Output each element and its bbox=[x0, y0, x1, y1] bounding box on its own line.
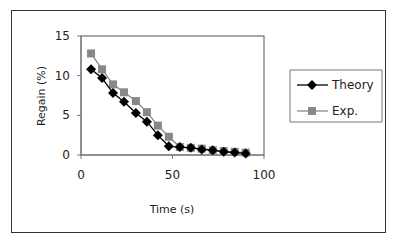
square-marker-icon bbox=[98, 65, 106, 73]
x-tick-label: 0 bbox=[77, 168, 85, 182]
square-marker-icon bbox=[109, 80, 117, 88]
x-axis-title: Time (s) bbox=[149, 203, 195, 216]
y-tick-label: 0 bbox=[62, 148, 70, 162]
y-tick-label: 10 bbox=[55, 69, 70, 83]
square-marker-icon bbox=[154, 122, 162, 130]
x-tick-label: 50 bbox=[165, 168, 180, 182]
square-marker-icon bbox=[120, 88, 128, 96]
series-theory bbox=[86, 64, 251, 158]
series-exp bbox=[87, 49, 250, 156]
line-chart: 051015050100 Regain (%) Time (s) TheoryE… bbox=[0, 0, 395, 245]
series-layer bbox=[86, 49, 251, 158]
square-marker-icon bbox=[132, 97, 140, 105]
y-axis-title: Regain (%) bbox=[35, 66, 48, 126]
legend: TheoryExp. bbox=[290, 70, 382, 122]
y-tick-label: 15 bbox=[55, 29, 70, 43]
square-marker-icon bbox=[165, 133, 173, 141]
y-tick-label: 5 bbox=[62, 108, 70, 122]
square-marker-icon bbox=[143, 108, 151, 116]
square-marker-icon bbox=[87, 49, 95, 57]
legend-label: Theory bbox=[331, 78, 374, 92]
x-tick-label: 100 bbox=[253, 168, 276, 182]
square-marker-icon bbox=[308, 107, 316, 115]
legend-label: Exp. bbox=[332, 104, 358, 118]
